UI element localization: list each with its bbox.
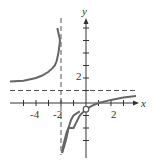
y-axis-arrow-icon [84,18,89,24]
curve-right-branch-near-asymptote [62,111,80,153]
x-tick-label: -2 [53,108,62,120]
graph: y x -4 -2 2 2 [0,0,153,162]
x-tick-label: -4 [30,108,40,120]
curve-left-branch [10,28,60,81]
x-axis-arrow-icon [133,101,139,106]
x-axis-label: x [140,97,146,109]
x-tick-label: 2 [111,108,117,120]
y-axis-label: y [81,5,87,17]
y-tick-label: 2 [76,70,82,82]
open-point [83,106,89,112]
